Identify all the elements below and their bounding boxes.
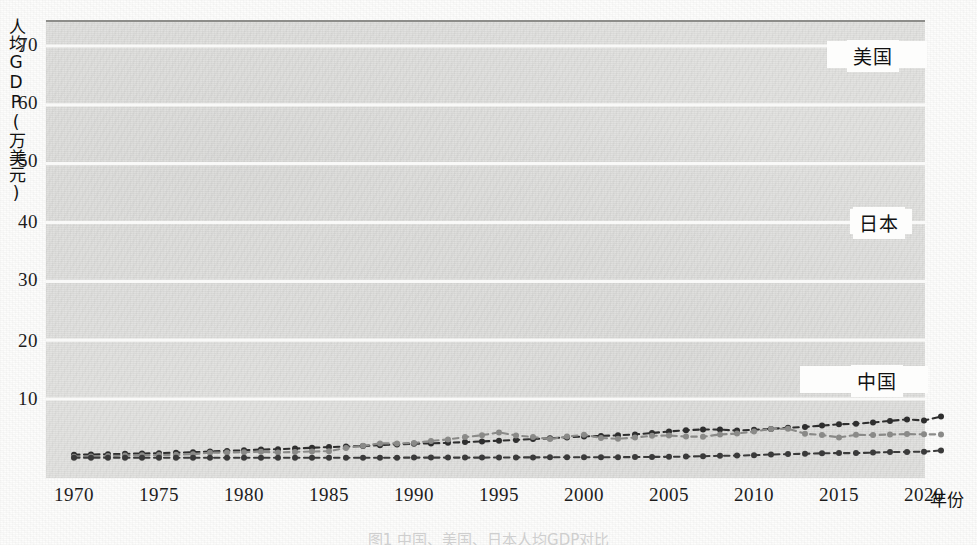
data-point-japan-1982 xyxy=(275,450,281,456)
figure-gdp-per-capita: 人均GDP(万美元) 70 60 50 40 30 20 10 美国 日本 中国… xyxy=(0,0,977,545)
data-point-china-2001 xyxy=(598,454,604,460)
x-tick-1980: 1980 xyxy=(209,484,279,506)
data-point-us-2014 xyxy=(819,423,825,429)
data-point-japan-1992 xyxy=(445,436,451,442)
data-point-china-2004 xyxy=(649,454,655,460)
data-point-china-1987 xyxy=(360,455,366,461)
data-point-japan-1999 xyxy=(564,434,570,440)
y-tick-60: 60 xyxy=(4,92,38,114)
data-point-japan-2021 xyxy=(938,431,944,437)
data-point-china-2009 xyxy=(734,453,740,459)
data-point-japan-1979 xyxy=(224,450,230,456)
data-point-china-1993 xyxy=(462,455,468,461)
data-point-china-2012 xyxy=(785,451,791,457)
data-point-japan-2004 xyxy=(649,433,655,439)
data-point-us-2015 xyxy=(836,421,842,427)
data-point-japan-2000 xyxy=(581,432,587,438)
data-point-japan-2011 xyxy=(768,426,774,432)
y-tick-20: 20 xyxy=(4,330,38,352)
data-point-china-2002 xyxy=(615,454,621,460)
data-point-japan-1987 xyxy=(360,443,366,449)
data-point-china-1976 xyxy=(173,455,179,461)
data-point-china-1980 xyxy=(241,455,247,461)
series-line-us xyxy=(74,417,941,455)
data-point-china-2015 xyxy=(836,450,842,456)
data-point-japan-1984 xyxy=(309,449,315,455)
x-tick-1970: 1970 xyxy=(39,484,109,506)
series-label-japan: 日本 xyxy=(853,207,905,239)
data-point-china-2006 xyxy=(683,454,689,460)
data-point-japan-1994 xyxy=(479,432,485,438)
data-point-china-1997 xyxy=(530,454,536,460)
y-tick-10: 10 xyxy=(4,388,38,410)
data-point-china-2007 xyxy=(700,453,706,459)
data-point-us-1995 xyxy=(496,438,502,444)
data-point-japan-2009 xyxy=(734,431,740,437)
series-line-japan xyxy=(74,429,941,457)
data-point-japan-2008 xyxy=(717,431,723,437)
data-point-japan-2020 xyxy=(921,431,927,437)
data-point-japan-2017 xyxy=(870,432,876,438)
x-tick-2015: 2015 xyxy=(804,484,874,506)
series-label-us: 美国 xyxy=(847,40,899,72)
data-point-us-2006 xyxy=(683,427,689,433)
data-point-china-2013 xyxy=(802,451,808,457)
data-point-japan-2007 xyxy=(700,434,706,440)
figure-caption: 图1 中国、美国、日本人均GDP对比 xyxy=(0,528,977,545)
data-point-china-1994 xyxy=(479,455,485,461)
data-point-china-2005 xyxy=(666,454,672,460)
data-point-japan-1993 xyxy=(462,434,468,440)
data-point-china-1991 xyxy=(428,455,434,461)
data-point-japan-2019 xyxy=(904,431,910,437)
data-point-japan-2015 xyxy=(836,434,842,440)
data-point-us-2019 xyxy=(904,416,910,422)
data-point-china-1974 xyxy=(139,455,145,461)
y-tick-70: 70 xyxy=(4,34,38,56)
data-point-china-1977 xyxy=(190,455,196,461)
data-point-china-2018 xyxy=(887,449,893,455)
data-point-us-2020 xyxy=(921,418,927,424)
data-point-china-1970 xyxy=(71,455,77,461)
data-point-china-1985 xyxy=(326,455,332,461)
y-tick-30: 30 xyxy=(4,269,38,291)
data-point-japan-1985 xyxy=(326,448,332,454)
data-point-us-2018 xyxy=(887,418,893,424)
data-point-china-1978 xyxy=(207,455,213,461)
data-point-china-2016 xyxy=(853,450,859,456)
plot-area xyxy=(46,20,925,478)
data-point-japan-2001 xyxy=(598,435,604,441)
data-point-japan-2003 xyxy=(632,435,638,441)
data-point-china-1971 xyxy=(88,455,94,461)
data-point-japan-2018 xyxy=(887,432,893,438)
data-point-us-2021 xyxy=(938,414,944,420)
data-point-japan-2005 xyxy=(666,433,672,439)
data-point-china-1982 xyxy=(275,455,281,461)
data-point-japan-1981 xyxy=(258,449,264,455)
data-point-japan-1988 xyxy=(377,440,383,446)
y-tick-50: 50 xyxy=(4,150,38,172)
data-point-japan-2012 xyxy=(785,426,791,432)
data-point-japan-1983 xyxy=(292,449,298,455)
data-point-japan-2002 xyxy=(615,436,621,442)
data-point-us-2013 xyxy=(802,424,808,430)
y-tick-40: 40 xyxy=(4,211,38,233)
data-point-japan-2013 xyxy=(802,431,808,437)
data-point-japan-1986 xyxy=(343,445,349,451)
data-point-china-1989 xyxy=(394,455,400,461)
data-point-china-1975 xyxy=(156,455,162,461)
data-point-china-2019 xyxy=(904,449,910,455)
data-point-japan-2010 xyxy=(751,428,757,434)
data-point-japan-1989 xyxy=(394,440,400,446)
data-point-japan-1998 xyxy=(547,436,553,442)
data-point-china-2000 xyxy=(581,454,587,460)
data-point-us-2017 xyxy=(870,420,876,426)
data-point-japan-2006 xyxy=(683,434,689,440)
data-point-china-1983 xyxy=(292,455,298,461)
data-point-china-1990 xyxy=(411,455,417,461)
data-point-china-2010 xyxy=(751,452,757,458)
data-point-china-2017 xyxy=(870,450,876,456)
data-point-japan-1990 xyxy=(411,440,417,446)
data-point-china-1992 xyxy=(445,455,451,461)
data-point-china-2003 xyxy=(632,454,638,460)
data-point-japan-1991 xyxy=(428,438,434,444)
